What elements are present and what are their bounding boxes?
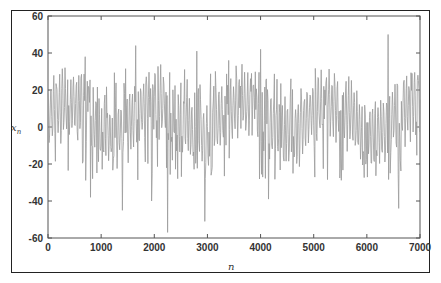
y-tick-label: -40 — [29, 196, 44, 207]
x-tick-label: 2000 — [143, 242, 166, 253]
x-tick-label: 1000 — [90, 242, 113, 253]
y-tick-label: 60 — [32, 11, 44, 22]
x-tick-label: 3000 — [196, 242, 219, 253]
y-tick-label: -20 — [29, 159, 44, 170]
y-tick-label: 20 — [32, 85, 44, 96]
y-tick-label: 40 — [32, 48, 44, 59]
line-chart: 6040200-20-40-60 01000200030004000500060… — [0, 0, 441, 283]
x-axis-label: n — [228, 261, 234, 272]
y-tick-label: -60 — [29, 233, 44, 244]
x-tick-label: 7000 — [409, 242, 432, 253]
y-axis-label: xn — [11, 122, 22, 136]
data-series-line — [48, 35, 420, 233]
x-tick-label: 0 — [45, 242, 51, 253]
y-tick-label: 0 — [37, 122, 43, 133]
x-tick-label: 4000 — [249, 242, 272, 253]
x-tick-label: 5000 — [303, 242, 326, 253]
x-tick-label: 6000 — [356, 242, 379, 253]
